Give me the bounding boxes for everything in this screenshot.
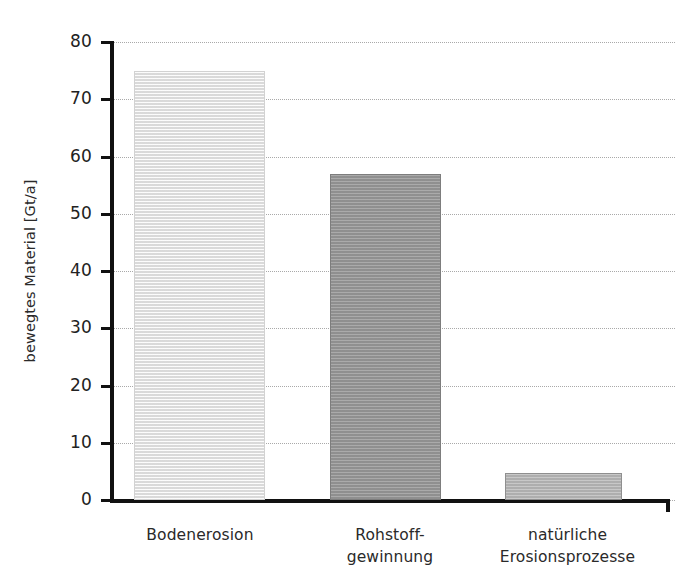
- y-tick-label-60: 60: [40, 148, 92, 165]
- x-axis-end-tick: [666, 499, 670, 512]
- category-label-1-line1: Bodenerosion: [120, 524, 280, 546]
- bar-rohstoffgewinnung-fill: [330, 174, 441, 500]
- bar-natuerliche-erosionsprozesse: [505, 473, 622, 500]
- y-tick-label-40: 40: [40, 262, 92, 279]
- category-label-3-line2: Erosionsprozesse: [470, 546, 665, 568]
- y-tick-label-70: 70: [40, 90, 92, 107]
- category-label-3-line1: natürliche: [470, 524, 665, 546]
- y-tick-label-20: 20: [40, 377, 92, 394]
- bar-bodenerosion: [134, 71, 265, 500]
- y-axis-line: [110, 41, 114, 502]
- category-label-1: Bodenerosion: [120, 524, 280, 546]
- y-tick-label-10: 10: [40, 434, 92, 451]
- category-label-2-line2: gewinnung: [315, 546, 465, 568]
- bar-bodenerosion-fill: [134, 71, 265, 500]
- category-label-2-line1: Rohstoff-: [315, 524, 465, 546]
- y-tick-label-30: 30: [40, 319, 92, 336]
- category-label-3: natürlicheErosionsprozesse: [470, 524, 665, 568]
- bar-chart: bewegtes Material [Gt/a] 807060504030201…: [0, 0, 692, 583]
- y-tick-label-80: 80: [40, 33, 92, 50]
- gridline-80: [113, 42, 675, 43]
- clipped-title-remnant: [120, 0, 420, 3]
- bar-natuerliche-erosionsprozesse-fill: [505, 473, 622, 500]
- category-label-2: Rohstoff-gewinnung: [315, 524, 465, 568]
- bar-rohstoffgewinnung: [330, 174, 441, 500]
- y-tick-label-50: 50: [40, 205, 92, 222]
- y-tick-label-0: 0: [40, 491, 92, 508]
